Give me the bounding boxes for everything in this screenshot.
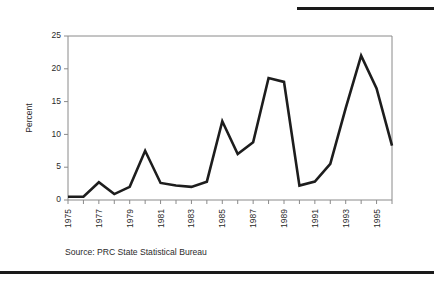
y-tick-label: 15: [52, 96, 62, 106]
bottom-rule-decoration: [0, 271, 434, 274]
x-tick-label: 1989: [279, 209, 289, 228]
y-axis-title: Percent: [24, 103, 34, 133]
plot-area: 0510152025Percent19751977197919811983198…: [0, 0, 434, 286]
y-tick-label: 20: [52, 63, 62, 73]
figure-root: 0510152025Percent19751977197919811983198…: [0, 0, 434, 286]
x-tick-label: 1985: [217, 209, 227, 228]
line-chart: 0510152025Percent19751977197919811983198…: [0, 0, 434, 286]
data-series-line: [68, 56, 392, 197]
y-tick-label: 25: [52, 30, 62, 40]
x-tick-label: 1979: [125, 209, 135, 228]
x-tick-label: 1991: [310, 209, 320, 228]
y-tick-label: 5: [56, 161, 61, 171]
y-tick-label: 10: [52, 129, 62, 139]
x-tick-label: 1975: [63, 209, 73, 228]
source-note: Source: PRC State Statistical Bureau: [65, 247, 207, 257]
x-tick-label: 1993: [341, 209, 351, 228]
x-tick-label: 1981: [156, 209, 166, 228]
x-tick-label: 1983: [186, 209, 196, 228]
x-tick-label: 1977: [94, 209, 104, 228]
y-tick-label: 0: [56, 194, 61, 204]
x-tick-label: 1995: [372, 209, 382, 228]
x-tick-label: 1987: [248, 209, 258, 228]
